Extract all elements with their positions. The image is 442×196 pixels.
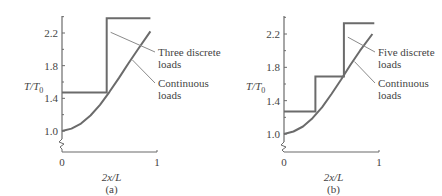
annotation-leader-line <box>354 62 375 84</box>
x-axis-title: 2x/L <box>102 171 122 183</box>
annotation-label: Continuous <box>378 77 429 89</box>
annotation-label: loads <box>158 58 181 70</box>
panel-label: (b) <box>327 183 340 196</box>
panel-label: (a) <box>105 183 118 196</box>
series-continuous-loads-curve <box>284 34 372 134</box>
y-tick-label: 2.2 <box>44 27 58 39</box>
y-axis-title: T/T0 <box>24 80 43 95</box>
axis-break-icon <box>281 142 286 152</box>
y-tick-label: 2.2 <box>266 28 280 40</box>
annotation-label: Five discrete <box>378 46 435 58</box>
figure: 1.01.41.82.201T/T02x/L(a)Three discretel… <box>0 0 442 196</box>
y-axis-title: T/T0 <box>246 80 265 95</box>
annotation-label: loads <box>378 58 401 70</box>
x-axis-title: 2x/L <box>324 171 344 183</box>
y-tick-label: 1.4 <box>266 95 280 107</box>
panel-a: 1.01.41.82.201T/T02x/L(a)Three discretel… <box>24 16 221 196</box>
y-axis-title-subscript: 0 <box>39 86 43 95</box>
panel-b: 1.01.41.82.201T/T02x/L(b)Five discretelo… <box>246 16 435 196</box>
y-tick-label: 1.8 <box>44 60 58 72</box>
x-tick-label: 0 <box>281 156 287 168</box>
annotation-label: loads <box>158 89 181 101</box>
y-tick-label: 1.8 <box>266 61 280 73</box>
x-tick-label: 1 <box>376 156 382 168</box>
annotation-label: Continuous <box>158 77 209 89</box>
y-tick-label: 1.0 <box>266 128 280 140</box>
x-tick-label: 1 <box>154 156 160 168</box>
x-tick-label: 0 <box>59 156 65 168</box>
annotation-label: Three discrete <box>158 46 221 58</box>
axis-break-icon <box>59 139 64 152</box>
y-tick-label: 1.4 <box>44 92 58 104</box>
series-discrete-loads-step <box>62 18 150 92</box>
y-axis-title-subscript: 0 <box>261 86 265 95</box>
annotation-leader-line <box>132 60 155 83</box>
y-tick-label: 1.0 <box>44 125 58 137</box>
annotation-label: loads <box>378 89 401 101</box>
